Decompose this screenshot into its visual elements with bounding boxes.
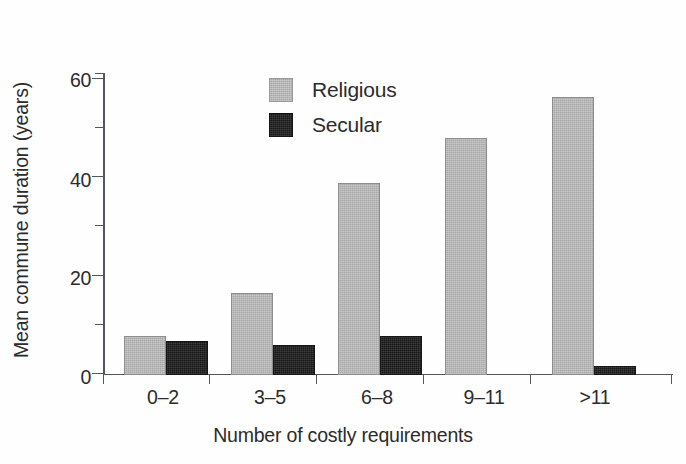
x-tick-boundary-5 <box>671 375 672 384</box>
y-axis-spine <box>103 73 105 375</box>
y-tick-30 <box>95 225 103 226</box>
bar-secular-0-2 <box>166 341 208 376</box>
bar-chart-figure: Mean commune duration (years) 0 20 40 60 <box>0 0 686 464</box>
x-tick-boundary-4 <box>530 375 531 384</box>
legend-label-secular: Secular <box>312 113 382 137</box>
y-tick-label-20: 20 <box>47 267 91 290</box>
x-tick-label-0-2: 0–2 <box>108 386 218 409</box>
plot-area: Religious Secular <box>103 30 673 375</box>
legend-swatch-secular-icon <box>269 113 293 137</box>
y-tick-label-40: 40 <box>47 169 91 192</box>
x-axis-title: Number of costly requirements <box>0 424 686 447</box>
bar-religious-over-11 <box>552 97 594 375</box>
y-tick-label-0: 0 <box>47 366 91 389</box>
x-tick-boundary-0 <box>103 375 104 384</box>
y-tick-20 <box>92 275 103 276</box>
x-tick-boundary-3 <box>423 375 424 384</box>
y-axis-title: Mean commune duration (years) <box>4 30 38 410</box>
bar-religious-3-5 <box>231 293 273 375</box>
bar-religious-6-8 <box>338 183 380 375</box>
bar-secular-over-11 <box>594 366 636 375</box>
x-tick-label-9-11: 9–11 <box>429 386 539 409</box>
bar-religious-0-2 <box>124 336 166 375</box>
y-tick-50 <box>95 127 103 128</box>
y-tick-60 <box>92 78 103 79</box>
bar-secular-3-5 <box>273 345 315 375</box>
x-tick-boundary-1 <box>209 375 210 384</box>
bar-religious-9-11 <box>445 138 487 375</box>
legend-label-religious: Religious <box>312 78 397 102</box>
chart-legend: Religious Secular <box>269 74 397 144</box>
x-tick-boundary-2 <box>316 375 317 384</box>
legend-swatch-religious-icon <box>269 78 293 102</box>
x-tick-label-3-5: 3–5 <box>215 386 325 409</box>
y-tick-10 <box>95 324 103 325</box>
y-tick-40 <box>92 176 103 177</box>
x-tick-label-6-8: 6–8 <box>322 386 432 409</box>
y-tick-0 <box>92 373 103 374</box>
legend-row-religious: Religious <box>269 74 397 105</box>
legend-row-secular: Secular <box>269 109 397 140</box>
x-tick-label-over-11: >11 <box>540 386 650 409</box>
y-tick-70 <box>95 73 103 74</box>
y-tick-label-60: 60 <box>47 69 91 92</box>
bar-secular-6-8 <box>380 336 422 375</box>
